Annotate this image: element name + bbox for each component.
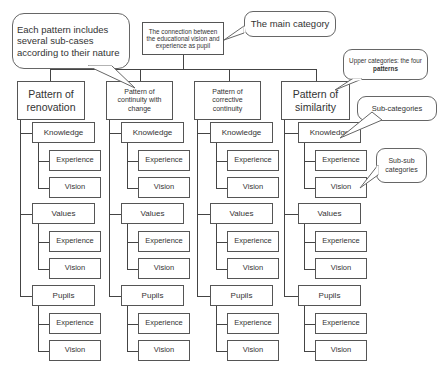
callout-upper-categories-text: Upper categories: the four patterns — [347, 57, 424, 72]
sub-category-label: Knowledge — [222, 128, 262, 137]
sub-sub-category-label: Vision — [331, 183, 351, 192]
pattern-spine — [20, 120, 21, 296]
sub-sub-category-box: Experience — [49, 150, 101, 171]
pattern-label: Pattern of renovation — [20, 88, 82, 112]
sub-sub-connector — [304, 242, 315, 243]
sub-connector — [109, 133, 121, 134]
sub-sub-category-box: Vision — [49, 340, 101, 361]
sub-category-label: Pupils — [53, 291, 75, 300]
sub-category-label: Pupils — [231, 291, 253, 300]
sub-sub-category-label: Vision — [154, 264, 174, 273]
pattern-spine — [197, 120, 198, 296]
sub-sub-category-label: Experience — [322, 237, 360, 246]
sub-sub-connector — [304, 161, 315, 162]
sub-category-box: Knowledge — [298, 122, 361, 143]
connector-p3 — [229, 69, 230, 81]
sub-sub-connector — [38, 188, 49, 189]
sub-sub-category-label: Vision — [154, 346, 174, 355]
sub-category-box: Knowledge — [32, 122, 95, 143]
connector-root-down — [183, 55, 184, 69]
sub-sub-category-label: Experience — [234, 319, 272, 328]
sub-category-box: Pupils — [121, 285, 184, 306]
sub-category-box: Knowledge — [121, 122, 184, 143]
sub-sub-category-box: Experience — [315, 150, 367, 171]
sub-sub-connector — [304, 351, 315, 352]
sub-connector — [284, 296, 298, 297]
sub-sub-category-label: Experience — [322, 156, 360, 165]
sub-sub-category-box: Experience — [138, 313, 190, 334]
callout-sub-cases-text: Each pattern includes several sub-cases … — [17, 24, 125, 58]
sub-sub-category-box: Experience — [227, 313, 279, 334]
sub-spine — [216, 306, 217, 351]
sub-sub-category-label: Vision — [154, 183, 174, 192]
sub-sub-category-box: Experience — [138, 231, 190, 252]
sub-spine — [216, 224, 217, 269]
pattern-box-3: Pattern of corrective continuity — [194, 81, 261, 120]
sub-sub-category-label: Vision — [243, 264, 263, 273]
sub-connector — [20, 214, 32, 215]
sub-sub-category-label: Experience — [145, 156, 183, 165]
callout-sub-sub-categories: Sub-sub categories — [376, 148, 427, 183]
sub-sub-category-label: Experience — [56, 237, 94, 246]
sub-category-label: Knowledge — [133, 128, 173, 137]
sub-sub-category-box: Vision — [138, 177, 190, 198]
sub-sub-category-box: Vision — [315, 340, 367, 361]
sub-sub-connector — [127, 324, 138, 325]
sub-spine — [304, 224, 305, 269]
sub-sub-connector — [38, 324, 49, 325]
sub-spine — [38, 306, 39, 351]
sub-sub-category-label: Experience — [234, 237, 272, 246]
sub-spine — [304, 143, 305, 188]
sub-sub-connector — [127, 188, 138, 189]
sub-sub-category-box: Vision — [49, 177, 101, 198]
sub-sub-category-box: Vision — [227, 177, 279, 198]
sub-sub-category-label: Vision — [243, 346, 263, 355]
sub-connector — [20, 296, 32, 297]
sub-connector — [284, 214, 298, 215]
sub-category-box: Pupils — [32, 285, 95, 306]
sub-sub-category-label: Experience — [234, 156, 272, 165]
sub-spine — [216, 143, 217, 188]
sub-spine — [127, 224, 128, 269]
sub-category-label: Values — [52, 209, 76, 218]
sub-sub-connector — [216, 269, 227, 270]
pattern-spine — [284, 120, 285, 296]
sub-sub-category-box: Vision — [227, 340, 279, 361]
sub-sub-connector — [127, 269, 138, 270]
pattern-spine — [109, 120, 110, 296]
sub-category-box: Pupils — [210, 285, 273, 306]
sub-sub-connector — [216, 351, 227, 352]
callout-upper-categories: Upper categories: the four patterns — [343, 49, 428, 80]
pattern-box-4: Pattern of similarity — [281, 81, 350, 120]
sub-connector — [109, 296, 121, 297]
sub-sub-category-box: Vision — [315, 258, 367, 279]
callout-sub-cases: Each pattern includes several sub-cases … — [12, 13, 130, 69]
sub-sub-category-label: Experience — [56, 156, 94, 165]
sub-connector — [197, 296, 210, 297]
sub-category-box: Pupils — [298, 285, 361, 306]
callout-main-category-text: The main category — [251, 18, 330, 29]
sub-connector — [197, 214, 210, 215]
sub-spine — [38, 224, 39, 269]
sub-sub-connector — [38, 351, 49, 352]
callout-main-category: The main category — [244, 11, 336, 37]
sub-connector — [197, 133, 210, 134]
sub-sub-category-label: Experience — [56, 319, 94, 328]
sub-sub-category-box: Vision — [49, 258, 101, 279]
sub-spine — [127, 143, 128, 188]
connector-p2 — [140, 69, 141, 81]
sub-sub-category-label: Experience — [322, 319, 360, 328]
sub-sub-category-label: Vision — [243, 183, 263, 192]
sub-sub-category-label: Vision — [331, 346, 351, 355]
sub-sub-connector — [127, 242, 138, 243]
sub-sub-category-box: Experience — [227, 231, 279, 252]
sub-sub-connector — [38, 269, 49, 270]
sub-sub-connector — [38, 242, 49, 243]
sub-spine — [38, 143, 39, 188]
pattern-box-2: Pattern of continuity with change — [106, 81, 173, 120]
sub-category-box: Knowledge — [210, 122, 273, 143]
sub-sub-category-label: Vision — [65, 183, 85, 192]
pattern-box-1: Pattern of renovation — [17, 81, 85, 120]
sub-connector — [20, 133, 32, 134]
sub-connector — [284, 133, 298, 134]
